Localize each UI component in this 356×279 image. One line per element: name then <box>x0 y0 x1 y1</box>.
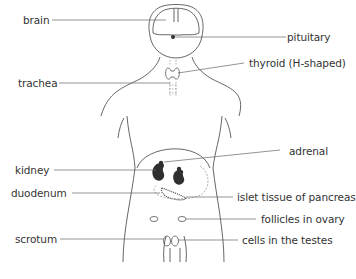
label-kidney: kidney <box>15 164 49 176</box>
right-adrenal <box>177 167 181 171</box>
label-scrotum: scrotum <box>15 233 57 245</box>
leader-adrenal <box>164 150 280 162</box>
label-thyroid: thyroid (H-shaped) <box>249 57 346 69</box>
label-pituitary: pituitary <box>287 31 330 43</box>
left-adrenal <box>159 161 163 165</box>
brain-fissure <box>174 9 178 22</box>
left-neck-shoulder <box>101 57 160 116</box>
brain-contour <box>153 8 199 35</box>
right-neck-shoulder <box>192 57 241 116</box>
left-leg <box>164 236 166 262</box>
left-torso <box>123 116 135 262</box>
label-islet-tissue: islet tissue of pancreas <box>237 191 356 203</box>
pancreas-islets <box>161 188 186 200</box>
left-ovary <box>150 217 158 222</box>
label-follicles: follicles in ovary <box>261 213 345 225</box>
label-adrenal: adrenal <box>289 145 328 157</box>
label-testes: cells in the testes <box>242 234 333 246</box>
label-brain: brain <box>23 14 50 26</box>
right-ovary <box>178 217 186 222</box>
leader-lines <box>52 20 286 240</box>
head-outline <box>149 5 203 59</box>
right-testis <box>172 236 179 246</box>
crotch <box>170 248 180 262</box>
right-kidney <box>173 170 184 185</box>
right-arm-inner <box>225 118 231 138</box>
label-duodenum: duodenum <box>11 187 67 199</box>
pituitary-gland <box>171 35 175 39</box>
leader-thyroid <box>178 63 244 73</box>
label-trachea: trachea <box>18 77 58 89</box>
left-arm-inner <box>118 118 124 138</box>
thyroid-gland <box>166 68 180 79</box>
left-kidney <box>152 163 164 181</box>
